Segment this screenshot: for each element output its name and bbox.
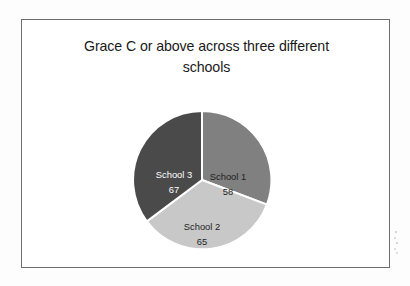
pie-chart-svg: School 1 58 School 2 65 School 3 67 xyxy=(132,110,272,250)
pie-label-school-3: School 3 xyxy=(156,169,192,180)
pie-label-school-1: School 1 xyxy=(210,171,246,182)
pie-value-school-2: 65 xyxy=(197,236,207,247)
slide-frame: Grace C or above across three different … xyxy=(21,19,390,268)
scan-artifact xyxy=(393,229,400,255)
scanned-page: Grace C or above across three different … xyxy=(0,0,410,286)
pie-value-school-3: 67 xyxy=(169,184,179,195)
chart-title-line-2: schools xyxy=(183,59,230,75)
pie-value-school-1: 58 xyxy=(223,186,233,197)
pie-chart: School 1 58 School 2 65 School 3 67 xyxy=(132,110,272,250)
chart-title-line-1: Grace C or above across three different xyxy=(84,38,329,54)
chart-title: Grace C or above across three different … xyxy=(48,36,365,78)
pie-label-school-2: School 2 xyxy=(184,221,220,232)
